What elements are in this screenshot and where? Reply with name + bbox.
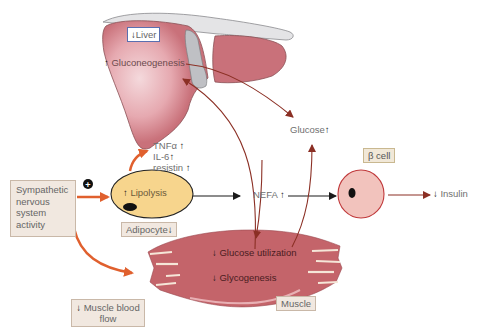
glucose-label: Glucose↑ [290, 125, 330, 135]
glycogenesis-text: Glycogenesis [219, 272, 276, 283]
insulin-text: Insulin [440, 188, 467, 199]
muscle-label: Muscle [276, 296, 316, 311]
adipocyte-label: Adipocyte↓ [121, 222, 177, 237]
lipolysis-to-cytokines-arrow [130, 151, 147, 171]
insulin-label: ↓ Insulin [433, 189, 468, 199]
muscle-blood-flow-box: ↓ Muscle blood flow [71, 299, 145, 327]
down-arrow-icon: ↓ [76, 302, 81, 313]
adipocyte-text: Adipocyte [126, 224, 168, 235]
up-arrow-icon: ↑ [169, 151, 174, 162]
glucose-utilization-label: ↓ Glucose utilization [212, 248, 297, 258]
beta-cell-nucleus [349, 188, 356, 198]
up-arrow-icon: ↑ [104, 57, 109, 68]
sympathetic-line-1: Sympathetic [16, 184, 70, 196]
lipolysis-label: ↑ Lipolysis [123, 188, 167, 198]
up-arrow-icon: ↑ [180, 140, 185, 151]
liver-label: ↓Liver [127, 27, 160, 42]
muscle-blood-flow-line-2: flow [75, 313, 141, 324]
beta-cell [338, 170, 384, 218]
glucose-text: Glucose [290, 124, 325, 135]
cytokine-tnfa: TNFα ↑ [153, 140, 190, 151]
beta-cell-label: β cell [363, 148, 395, 163]
nefa-to-liver-arrow [183, 79, 256, 249]
down-arrow-icon: ↓ [433, 188, 438, 199]
cytokine-resistin: resistin ↑ [153, 162, 190, 173]
up-arrow-icon: ↑ [280, 189, 285, 200]
up-arrow-icon: ↑ [186, 162, 191, 173]
glucose-utilization-text: Glucose utilization [219, 247, 296, 258]
sympathetic-box: Sympathetic nervous system activity [10, 180, 76, 237]
sympathetic-line-3: system [16, 207, 70, 219]
sympathetic-line-2: nervous [16, 196, 70, 208]
svg-text:+: + [85, 180, 90, 190]
up-arrow-icon: ↑ [123, 187, 128, 198]
nefa-text: NEFA [253, 189, 277, 200]
down-arrow-icon: ↓ [212, 247, 217, 258]
adipocyte-nucleus [123, 203, 137, 211]
muscle-text: Muscle [281, 298, 311, 309]
beta-cell-text: β cell [368, 150, 390, 161]
up-arrow-icon: ↑ [325, 124, 330, 135]
gluconeogenesis-label: ↑ Gluconeogenesis [104, 58, 185, 68]
liver-text: Liver [136, 29, 157, 40]
lipolysis-text: Lipolysis [130, 187, 166, 198]
muscle-blood-flow-line-1: ↓ Muscle blood [75, 302, 141, 313]
down-arrow-icon: ↓ [212, 272, 217, 283]
nefa-label: NEFA ↑ [253, 190, 285, 200]
glycogenesis-label: ↓ Glycogenesis [212, 273, 276, 283]
gluconeogenesis-text: Gluconeogenesis [111, 57, 184, 68]
down-arrow-icon: ↓ [168, 224, 173, 235]
sympathetic-line-4: activity [16, 219, 70, 231]
cytokine-il6: IL-6↑ [153, 151, 190, 162]
cytokines-list: TNFα ↑ IL-6↑ resistin ↑ [153, 140, 190, 173]
